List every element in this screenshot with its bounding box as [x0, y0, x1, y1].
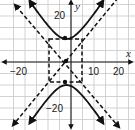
y-axis-label: y	[74, 0, 80, 12]
lower-vertex-point	[63, 80, 67, 84]
y-tick-neg20: −20	[46, 103, 63, 114]
x-axis-label: x	[125, 47, 131, 59]
upper-vertex-point	[63, 36, 67, 40]
hyperbola-chart: x y −20 10 20 20 −20	[0, 0, 135, 130]
grid	[0, 0, 135, 130]
hyperbola-upper-branch	[31, 3, 102, 40]
y-tick-20: 20	[54, 10, 66, 21]
x-tick-20: 20	[113, 66, 125, 77]
x-tick-neg20: −20	[10, 66, 27, 77]
center-point	[64, 59, 68, 63]
x-tick-10: 10	[88, 66, 100, 77]
